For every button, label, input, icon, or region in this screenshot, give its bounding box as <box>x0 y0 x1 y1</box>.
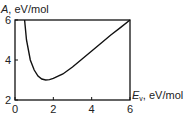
x-tick-label: 0 <box>12 103 18 115</box>
data-curve <box>25 20 130 80</box>
y-tick-label: 4 <box>5 54 11 66</box>
chart: 0246246 A, eV/mol Ev, eV/mol <box>0 0 184 119</box>
y-tick-label: 2 <box>5 94 11 106</box>
x-axis-label: Ev, eV/mol <box>132 89 183 102</box>
y-tick-label: 6 <box>5 14 11 26</box>
x-tick-label: 2 <box>50 103 56 115</box>
plot-frame <box>15 20 130 100</box>
axis-ticks <box>15 20 130 100</box>
y-axis-label: A, eV/mol <box>0 3 49 15</box>
x-tick-label: 4 <box>89 103 95 115</box>
x-tick-label: 6 <box>127 103 133 115</box>
